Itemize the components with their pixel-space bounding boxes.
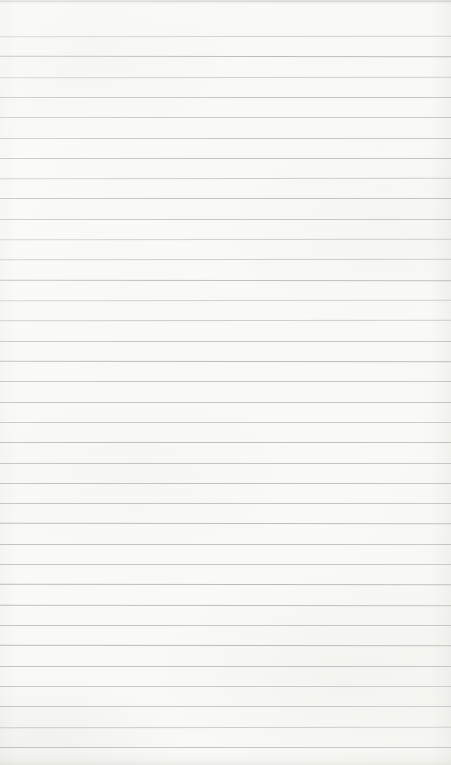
ruled-line: [0, 381, 451, 382]
ruled-line: [0, 523, 451, 524]
ruled-line: [0, 462, 451, 463]
ruled-line: [0, 483, 451, 484]
ruled-line: [0, 178, 451, 179]
ruled-line: [0, 300, 451, 301]
ruled-line: [0, 645, 451, 646]
ruled-line: [0, 56, 451, 57]
ruled-line: [0, 76, 451, 77]
ruled-line: [0, 422, 451, 423]
ruled-line: [0, 138, 451, 139]
ruled-line: [0, 320, 451, 321]
ruled-line: [0, 503, 451, 504]
ruled-line-partial-top: [0, 1, 451, 2]
ruled-line: [0, 198, 451, 199]
ruled-line: [0, 726, 451, 727]
ruled-line: [0, 584, 451, 585]
ruled-line: [0, 402, 451, 403]
ruled-line: [0, 747, 451, 748]
ruled-line: [0, 36, 451, 37]
ruled-line: [0, 442, 451, 443]
ruled-line: [0, 97, 451, 98]
ruled-line: [0, 686, 451, 687]
ruled-line: [0, 564, 451, 565]
ruled-line: [0, 605, 451, 606]
ruled-line: [0, 280, 451, 281]
ruled-line: [0, 706, 451, 707]
ruled-line: [0, 219, 451, 220]
ruled-line: [0, 666, 451, 667]
ruled-line: [0, 158, 451, 159]
ruled-line: [0, 544, 451, 545]
ruled-line: [0, 259, 451, 260]
ruled-line: [0, 361, 451, 362]
ruled-line: [0, 341, 451, 342]
ruled-line: [0, 625, 451, 626]
ruled-line: [0, 239, 451, 240]
ruled-lines: [0, 0, 451, 765]
notebook-page: [0, 0, 451, 765]
ruled-line: [0, 117, 451, 118]
